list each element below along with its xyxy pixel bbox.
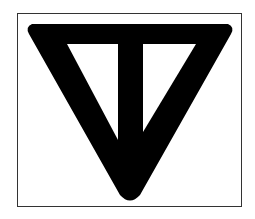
inverted-triangle-with-vertical-bar-icon (0, 0, 255, 219)
